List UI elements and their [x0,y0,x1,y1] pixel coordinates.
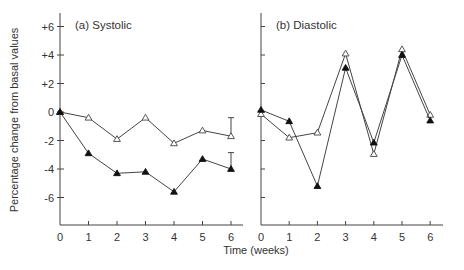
open-triangle-marker-icon [142,114,149,120]
filled-triangle-marker-icon [427,117,434,123]
y-tick-label: +2 [41,78,54,90]
x-tick-label: 0 [258,231,264,243]
x-tick-label: 6 [427,231,433,243]
open-triangle-marker-icon [114,136,121,142]
x-tick-label: 5 [399,231,405,243]
x-tick-label: 1 [286,231,292,243]
y-tick-label: 0 [48,106,54,118]
panel-systolic: +6+4+20-2-4-60123456(a) Systolic [41,13,243,243]
filled-triangle-marker-icon [199,156,206,162]
y-axis-label: Percentage change from basal values [8,27,20,212]
x-tick-label: 6 [228,231,234,243]
filled-triangle-marker-icon [258,106,265,112]
x-tick-label: 3 [343,231,349,243]
y-tick-label: -4 [44,163,54,175]
blood-pressure-chart: Percentage change from basal values +6+4… [0,0,464,270]
y-tick-label: -6 [44,192,54,204]
y-tick-label: -2 [44,135,54,147]
filled-triangle-marker-icon [142,168,149,174]
x-tick-label: 3 [142,231,148,243]
filled-triangle-marker-icon [85,150,92,156]
x-tick-label: 4 [371,231,377,243]
panel-title: (a) Systolic [75,19,132,31]
x-axis-label: Time (weeks) [223,244,289,256]
x-tick-label: 4 [171,231,177,243]
filled-triangle-marker-icon [370,139,377,145]
open-triangle-marker-icon [199,127,206,133]
series-line [261,55,430,186]
x-tick-label: 5 [199,231,205,243]
panel-diastolic: 0123456(b) Diastolic [258,13,443,243]
series-line [60,112,231,192]
x-tick-label: 0 [57,231,63,243]
panel-title: (b) Diastolic [276,19,337,31]
x-tick-label: 2 [114,231,120,243]
y-tick-label: +4 [41,49,54,61]
open-triangle-marker-icon [342,50,349,56]
filled-triangle-marker-icon [314,183,321,189]
open-triangle-marker-icon [370,151,377,157]
open-triangle-marker-icon [314,129,321,135]
y-tick-label: +6 [41,21,54,33]
x-tick-label: 1 [85,231,91,243]
x-tick-label: 2 [314,231,320,243]
filled-triangle-marker-icon [57,109,64,115]
filled-triangle-marker-icon [342,64,349,70]
